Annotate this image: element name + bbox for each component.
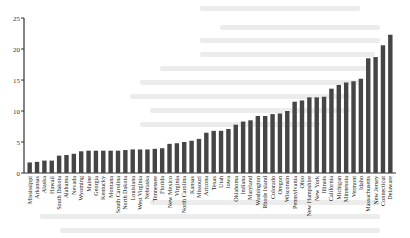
x-tick-label: Massachusetts xyxy=(364,175,371,211)
x-tick-label: Michigan xyxy=(335,176,342,200)
x-tick-label: Delaware xyxy=(386,176,393,200)
bar xyxy=(300,100,304,173)
x-tick-label: Arkansas xyxy=(33,175,40,199)
x-tick-label: Iowa xyxy=(224,176,231,189)
bar xyxy=(211,131,215,173)
bar xyxy=(226,129,230,173)
x-tick-label: Vermont xyxy=(350,176,357,198)
bar xyxy=(322,97,326,173)
bar xyxy=(351,81,355,173)
bar xyxy=(86,151,90,173)
bar xyxy=(204,133,208,173)
x-tick-label: Texas xyxy=(210,175,217,190)
bar xyxy=(57,156,61,173)
x-axis-labels: MississippiArkansasAlaskaHawaiiSouth Dak… xyxy=(26,175,394,216)
x-tick-label: Pennsylvania xyxy=(291,176,298,209)
x-tick-label: Idaho xyxy=(357,176,364,190)
x-tick-label: Maine xyxy=(85,176,92,192)
bar-chart: 0510152025 MississippiArkansasAlaskaHawa… xyxy=(0,0,410,238)
y-tick-label: 0 xyxy=(17,170,21,178)
y-tick-label: 15 xyxy=(13,77,21,85)
y-tick-label: 25 xyxy=(13,15,21,23)
x-tick-label: North Dakota xyxy=(121,176,128,210)
x-tick-label: Oregon xyxy=(276,176,283,195)
bar xyxy=(197,139,201,173)
bar xyxy=(35,162,39,173)
bar xyxy=(248,120,252,173)
bar xyxy=(278,113,282,173)
bar xyxy=(285,111,289,173)
bar xyxy=(116,151,120,173)
bar xyxy=(79,151,83,173)
bar xyxy=(263,116,267,173)
bar xyxy=(145,149,149,173)
bar xyxy=(108,151,112,173)
x-tick-label: Nebraska xyxy=(143,176,150,200)
x-tick-label: Rhode Island xyxy=(261,175,268,209)
y-tick-label: 10 xyxy=(13,108,21,116)
bar xyxy=(138,149,142,173)
x-tick-label: New York xyxy=(313,175,320,201)
x-tick-label: Missouri xyxy=(195,176,202,198)
bar xyxy=(241,122,245,173)
x-tick-label: Utah xyxy=(217,175,224,188)
bar xyxy=(42,161,46,173)
x-tick-label: Alabama xyxy=(62,176,69,199)
x-tick-label: Florida xyxy=(158,176,165,194)
x-tick-label: South Carolina xyxy=(114,176,121,214)
x-tick-label: Indiana xyxy=(239,176,246,195)
x-tick-label: South Dakota xyxy=(55,176,62,210)
bar xyxy=(94,151,98,173)
x-tick-label: Virginia xyxy=(173,176,180,196)
bar xyxy=(167,144,171,173)
x-tick-label: California xyxy=(327,176,334,201)
bar xyxy=(72,154,76,173)
bar xyxy=(123,150,127,173)
bar xyxy=(381,45,385,173)
bar xyxy=(182,142,186,173)
bar xyxy=(337,85,341,173)
bar xyxy=(153,149,157,173)
bar xyxy=(359,79,363,173)
x-tick-label: Minnesota xyxy=(342,176,349,202)
bars xyxy=(27,35,392,173)
bar xyxy=(373,57,377,173)
bar xyxy=(366,58,370,173)
bar xyxy=(256,116,260,173)
bar xyxy=(388,35,392,173)
x-tick-label: Ohio xyxy=(298,176,305,188)
x-tick-label: Georgia xyxy=(92,176,99,196)
x-tick-label: West Virginia xyxy=(136,176,143,210)
x-tick-label: Connecticut xyxy=(379,176,386,206)
bar xyxy=(50,161,54,173)
x-tick-label: Kentucky xyxy=(99,175,106,200)
bar xyxy=(234,125,238,173)
x-tick-label: Maryland xyxy=(246,175,253,200)
bar xyxy=(131,149,135,173)
bar xyxy=(175,143,179,173)
x-tick-label: Louisiana xyxy=(129,176,136,201)
x-tick-label: Tennessee xyxy=(151,176,158,202)
bar xyxy=(307,97,311,173)
x-tick-label: Alaska xyxy=(40,176,47,193)
x-tick-label: Kansas xyxy=(188,175,195,193)
bar xyxy=(160,148,164,173)
x-tick-label: Nevada xyxy=(70,176,77,195)
bar xyxy=(315,97,319,173)
bar xyxy=(292,102,296,173)
bar xyxy=(189,141,193,173)
x-tick-label: Oklahoma xyxy=(232,176,239,202)
y-tick-label: 5 xyxy=(17,139,21,147)
bar xyxy=(329,89,333,173)
x-tick-label: Wisconsin xyxy=(283,176,290,202)
x-tick-label: New Mexico xyxy=(166,176,173,208)
bar xyxy=(27,162,31,173)
x-tick-label: Hawaii xyxy=(48,176,55,194)
bar xyxy=(64,155,68,173)
bar xyxy=(344,82,348,173)
x-tick-label: New Jersey xyxy=(372,175,379,205)
x-tick-label: Wyoming xyxy=(77,176,84,200)
x-tick-label: Arizona xyxy=(202,176,209,196)
bar xyxy=(101,151,105,173)
x-tick-label: Illinois xyxy=(320,175,327,193)
